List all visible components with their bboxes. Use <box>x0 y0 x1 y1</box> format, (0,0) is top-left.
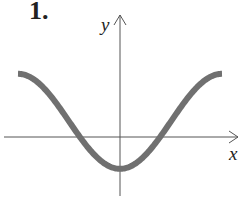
x-axis-label: x <box>228 143 238 164</box>
y-axis-label: y <box>99 14 110 35</box>
graph: y x <box>0 0 242 199</box>
